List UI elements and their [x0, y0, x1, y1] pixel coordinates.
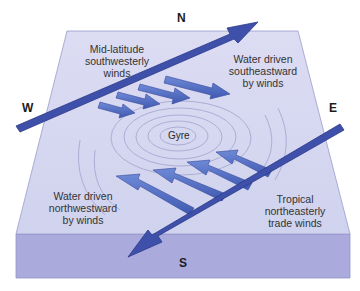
- trade-winds-label: Tropical northeasterly trade winds: [250, 193, 340, 229]
- compass-south-label: S: [179, 256, 187, 270]
- water-southeast-label: Water driven southeastward by winds: [218, 53, 308, 89]
- ocean-gyre-diagram: [0, 0, 360, 291]
- compass-west-label: W: [22, 101, 33, 115]
- gyre-label: Gyre: [168, 130, 190, 141]
- compass-north-label: N: [177, 11, 186, 25]
- compass-east-label: E: [329, 101, 337, 115]
- water-northwest-label: Water driven northwestward by winds: [38, 190, 128, 226]
- westerlies-label: Mid-latitude southwesterly winds: [72, 43, 162, 79]
